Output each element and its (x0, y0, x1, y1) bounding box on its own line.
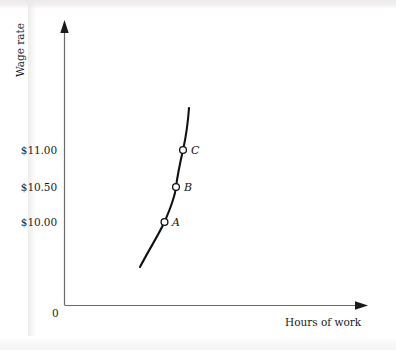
data-point-marker-a (161, 219, 168, 226)
y-axis-title: Wage rate (14, 20, 26, 80)
data-point-label-a: A (172, 216, 180, 229)
data-point-marker-b (173, 184, 180, 191)
data-point-label-b: B (184, 181, 192, 194)
origin-label: 0 (52, 307, 59, 319)
data-point-marker-c (180, 147, 187, 154)
y-axis-arrowhead (60, 20, 68, 33)
labor-supply-curve (140, 108, 189, 267)
data-point-label-c: C (191, 144, 199, 157)
y-axis (60, 20, 68, 305)
y-tick-label-10-00: $10.00 (0, 216, 57, 228)
x-axis-title: Hours of work (285, 316, 361, 328)
chart-plot-area (0, 0, 396, 350)
y-tick-label-10-50: $10.50 (0, 181, 57, 193)
figure-canvas: $11.00 $10.50 $10.00 A B C Wage rate Hou… (0, 0, 396, 350)
x-axis (65, 301, 369, 309)
y-tick-label-11-00: $11.00 (0, 144, 57, 156)
x-axis-arrowhead (355, 301, 368, 309)
